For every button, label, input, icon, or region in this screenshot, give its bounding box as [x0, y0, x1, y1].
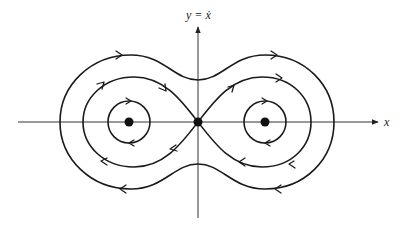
- arrow-right-lobe-bottom: [239, 158, 245, 166]
- y-axis-label: y = ẋ: [186, 9, 211, 21]
- x-axis-label: x: [384, 116, 389, 128]
- arrow-right-lobe-lower-right: [289, 161, 295, 168]
- arrow-left-lobe-bottom: [101, 158, 107, 165]
- arrow-outer-bottom-right: [275, 185, 281, 193]
- saddle-point: [194, 118, 203, 127]
- right-center-point: [261, 118, 270, 127]
- left-center-point: [125, 118, 134, 127]
- arrow-outer-top-left: [116, 51, 122, 59]
- phase-portrait-diagram: [0, 0, 404, 225]
